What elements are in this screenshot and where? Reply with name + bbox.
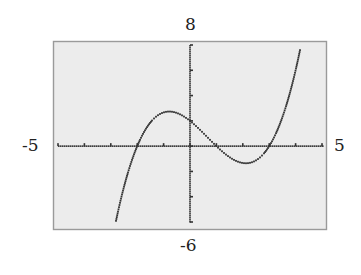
y-axis-dot: [189, 55, 191, 57]
x-axis-dot: [290, 145, 292, 147]
x-axis-dot: [244, 145, 246, 147]
curve-dot: [115, 220, 117, 222]
y-axis-dot: [189, 113, 191, 115]
curve-dot: [203, 133, 205, 135]
curve-dot: [167, 111, 169, 113]
y-axis-dot: [189, 183, 191, 185]
x-axis-dot: [96, 145, 98, 147]
x-tick: [321, 143, 323, 146]
ymax-label: 8: [185, 16, 196, 33]
y-axis-dot: [189, 209, 191, 211]
y-axis-dot: [189, 131, 191, 133]
y-axis-dot: [189, 167, 191, 169]
y-axis-dot: [189, 99, 191, 101]
curve-dot: [144, 129, 146, 131]
y-axis-dot: [189, 185, 191, 187]
x-axis-dot: [72, 145, 74, 147]
curve-dot: [181, 114, 183, 116]
curve-dot: [280, 119, 282, 121]
curve-dot: [290, 90, 292, 92]
curve-dot: [288, 95, 290, 97]
curve-dot: [229, 157, 231, 159]
y-axis-dot: [189, 87, 191, 89]
x-axis-dot: [194, 145, 196, 147]
curve-dot: [132, 157, 134, 159]
curve-dot: [123, 188, 125, 190]
y-axis-dot: [189, 137, 191, 139]
curve-dot: [187, 118, 189, 120]
curve-dot: [247, 162, 249, 164]
curve-dot: [231, 158, 233, 160]
x-axis-dot: [246, 145, 248, 147]
curve-dot: [283, 112, 285, 114]
curve-dot: [269, 144, 271, 146]
x-axis-dot: [160, 145, 162, 147]
xmax-label: 5: [334, 137, 345, 154]
x-axis-dot: [154, 145, 156, 147]
curve-dot: [130, 163, 132, 165]
y-tick: [190, 69, 193, 71]
y-axis-dot: [189, 109, 191, 111]
x-axis-dot: [314, 145, 316, 147]
x-axis-dot: [122, 145, 124, 147]
y-axis-dot: [189, 217, 191, 219]
x-axis-dot: [118, 145, 120, 147]
x-axis-dot: [310, 145, 312, 147]
x-axis-dot: [140, 145, 142, 147]
curve-dot: [295, 68, 297, 70]
curve-dot: [294, 74, 296, 76]
curve-dot: [121, 194, 123, 196]
curve-dot: [243, 162, 245, 164]
curve-dot: [255, 159, 257, 161]
y-axis-dot: [189, 177, 191, 179]
curve-dot: [273, 137, 275, 139]
curve-dot: [119, 204, 121, 206]
y-axis-dot: [189, 79, 191, 81]
curve-dot: [281, 117, 283, 119]
x-axis-dot: [286, 145, 288, 147]
y-axis-dot: [189, 67, 191, 69]
y-axis-dot: [189, 165, 191, 167]
y-axis-dot: [189, 93, 191, 95]
x-axis-dot: [106, 145, 108, 147]
curve-dot: [125, 178, 127, 180]
curve-dot: [299, 51, 301, 53]
x-axis-dot: [228, 145, 230, 147]
curve-dot: [211, 141, 213, 143]
y-axis-dot: [189, 135, 191, 137]
curve-dot: [201, 131, 203, 133]
xmin-label: -5: [22, 137, 39, 154]
x-axis-dot: [114, 145, 116, 147]
curve-dot: [140, 137, 142, 139]
y-axis-dot: [189, 157, 191, 159]
curve-dot: [289, 92, 291, 94]
x-axis-dot: [90, 145, 92, 147]
y-axis-dot: [189, 47, 191, 49]
x-tick: [163, 143, 165, 146]
curve-dot: [223, 152, 225, 154]
curve-dot: [117, 211, 119, 213]
curve-dot: [299, 49, 301, 51]
x-axis-dot: [306, 145, 308, 147]
curve-dot: [128, 169, 130, 171]
x-axis-dot: [88, 145, 90, 147]
curve-dot: [151, 120, 153, 122]
x-axis-dot: [158, 145, 160, 147]
curve-dot: [129, 165, 131, 167]
curve-dot: [131, 159, 133, 161]
curve-dot: [128, 167, 130, 169]
x-axis-dot: [304, 145, 306, 147]
curve-dot: [259, 157, 261, 159]
x-axis-dot: [138, 145, 140, 147]
x-axis-dot: [150, 145, 152, 147]
x-axis-dot: [60, 145, 62, 147]
y-axis-dot: [189, 127, 191, 129]
x-axis-dot: [210, 145, 212, 147]
x-axis-dot: [62, 145, 64, 147]
x-axis-dot: [142, 145, 144, 147]
y-axis-dot: [189, 123, 191, 125]
x-axis-dot: [128, 145, 130, 147]
x-axis-dot: [80, 145, 82, 147]
x-axis-dot: [318, 145, 320, 147]
curve-dot: [157, 114, 159, 116]
